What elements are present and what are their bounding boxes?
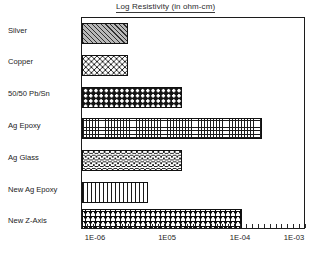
x-axis-tick — [287, 224, 288, 228]
x-axis-tick — [264, 224, 265, 228]
x-axis-tick — [134, 224, 135, 228]
category-label-new-z-axis: New Z-Axis — [8, 216, 47, 225]
x-axis-tick — [240, 224, 241, 228]
plot-area — [81, 17, 305, 229]
x-axis-tick — [105, 224, 106, 228]
x-axis-tick — [152, 224, 153, 228]
x-tick-label-1e05: 1E05 — [158, 233, 176, 242]
x-axis-tick — [146, 224, 147, 228]
x-axis-tick — [110, 224, 111, 228]
x-axis-tick — [258, 224, 259, 228]
x-tick-label-1e-04: 1E-04 — [230, 233, 250, 242]
x-axis-tick — [87, 224, 88, 228]
x-axis-tick — [81, 224, 82, 228]
x-axis-tick — [293, 224, 294, 228]
x-axis-tick — [158, 224, 159, 228]
x-axis-tick — [299, 224, 300, 228]
x-axis-tick — [181, 224, 182, 228]
x-axis-tick — [122, 224, 123, 228]
chart-title: Log Resistivity (in ohm-cm) — [116, 2, 215, 13]
x-axis-tick — [93, 224, 94, 228]
x-axis-tick — [276, 224, 277, 228]
category-label-silver: Silver — [8, 26, 27, 35]
bar-pbsn — [82, 87, 182, 108]
x-axis-tick — [169, 224, 170, 228]
category-label-ag-glass: Ag Glass — [8, 153, 39, 162]
x-axis-tick — [175, 224, 176, 228]
x-axis-tick — [128, 224, 129, 228]
x-axis-tick — [187, 224, 188, 228]
x-tick-label-1e-06: 1E-06 — [85, 233, 105, 242]
x-axis-tick — [234, 224, 235, 228]
x-axis-tick — [205, 224, 206, 228]
x-axis-tick — [228, 224, 229, 228]
bar-copper — [82, 55, 128, 76]
category-label-ag-epoxy: Ag Epoxy — [8, 121, 41, 130]
x-axis-tick — [246, 224, 247, 228]
chart-root: Log Resistivity (in ohm-cm) Silver Coppe… — [0, 0, 316, 253]
x-axis-tick — [222, 224, 223, 228]
x-axis-tick — [116, 224, 117, 228]
bar-ag-epoxy — [82, 118, 262, 139]
x-axis-tick — [281, 224, 282, 228]
x-axis-tick — [305, 224, 306, 228]
x-axis-tick — [217, 224, 218, 228]
bar-silver — [82, 23, 128, 44]
x-tick-label-1e-03: 1E-03 — [284, 233, 304, 242]
x-axis-ticks — [81, 224, 305, 229]
x-axis-tick — [99, 224, 100, 228]
category-label-pbsn: 50/50 Pb/Sn — [8, 89, 50, 98]
x-axis-tick — [140, 224, 141, 228]
x-axis-tick — [199, 224, 200, 228]
x-axis-tick — [211, 224, 212, 228]
bar-ag-glass — [82, 150, 182, 171]
bar-new-ag-epoxy — [82, 182, 148, 203]
x-axis-tick — [252, 224, 253, 228]
x-axis-tick — [270, 224, 271, 228]
category-label-new-ag-epoxy: New Ag Epoxy — [8, 185, 57, 194]
x-axis-tick — [164, 224, 165, 228]
x-axis-tick — [193, 224, 194, 228]
category-label-copper: Copper — [8, 57, 33, 66]
